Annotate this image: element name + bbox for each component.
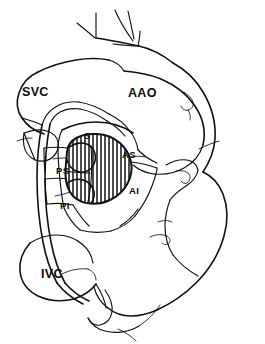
anatomy-line-drawing [0, 0, 265, 344]
label-pi-posteroinferior: PI [60, 201, 70, 211]
label-aao: AAO [128, 87, 157, 100]
label-svc: SVC [22, 86, 49, 99]
anatomical-figure: SVC AAO IVC S PS PI AS AI [0, 0, 265, 344]
label-as-anterosuperior: AS [122, 150, 136, 160]
label-s-septal: S [84, 131, 91, 141]
label-ps-posteroseptal: PS [56, 166, 69, 176]
label-ivc: IVC [41, 268, 63, 281]
figure-background [0, 0, 265, 344]
label-ai-anteroinferior: AI [129, 186, 139, 196]
